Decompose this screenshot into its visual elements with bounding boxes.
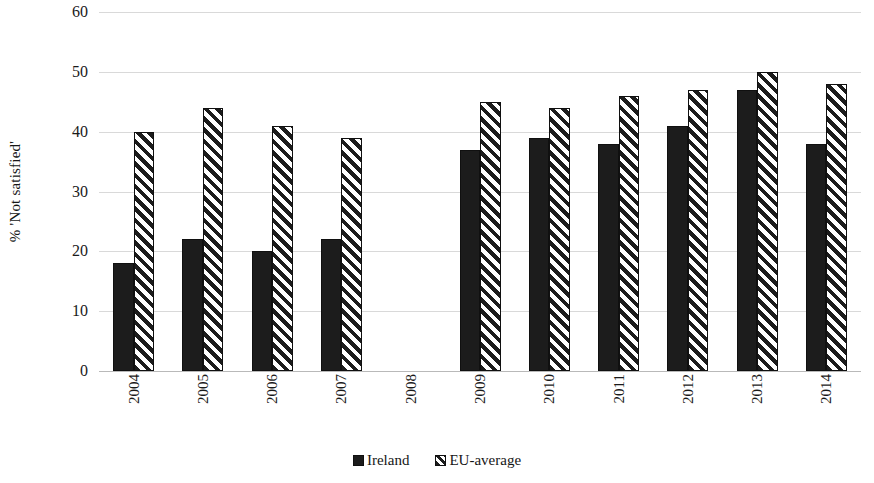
bar-eu-average-2011 (619, 96, 640, 371)
y-axis-title: % 'Not satisfied' (0, 0, 30, 383)
bar-eu-average-2006 (272, 126, 293, 371)
x-axis-tick-labels: 2004200520062007200820092010201120122013… (99, 374, 861, 440)
y-axis-tick-40: 40 (40, 124, 88, 140)
legend-swatch-icon (435, 455, 446, 466)
legend-swatch-icon (353, 455, 364, 466)
bar-ireland-2014 (806, 144, 827, 371)
y-axis-tick-30: 30 (40, 184, 88, 200)
y-axis-tick-labels: 0102030405060 (40, 0, 88, 383)
bar-ireland-2009 (460, 150, 481, 371)
bar-eu-average-2013 (757, 72, 778, 371)
bar-ireland-2013 (737, 90, 758, 371)
bar-eu-average-2010 (549, 108, 570, 371)
bar-chart: % 'Not satisfied' 0102030405060 20042005… (0, 0, 874, 483)
bar-eu-average-2012 (688, 90, 709, 371)
legend-item-ireland[interactable]: Ireland (353, 452, 409, 469)
chart-legend: IrelandEU-average (0, 452, 874, 469)
bar-ireland-2011 (598, 144, 619, 371)
x-axis-tick-2014: 2014 (817, 374, 835, 440)
x-axis-tick-2012: 2012 (679, 374, 697, 440)
bar-ireland-2006 (252, 251, 273, 371)
bar-ireland-2004 (113, 263, 134, 371)
legend-label: Ireland (367, 452, 409, 469)
x-axis-tick-2005: 2005 (194, 374, 212, 440)
x-axis-tick-2004: 2004 (125, 374, 143, 440)
x-axis-tick-2010: 2010 (540, 374, 558, 440)
bar-eu-average-2007 (341, 138, 362, 371)
y-axis-tick-60: 60 (40, 4, 88, 20)
y-axis-tick-10: 10 (40, 303, 88, 319)
x-axis-tick-2011: 2011 (610, 374, 628, 440)
y-axis-tick-20: 20 (40, 243, 88, 259)
gridline-0 (99, 371, 861, 372)
bar-ireland-2010 (529, 138, 550, 371)
bar-eu-average-2009 (480, 102, 501, 371)
bars-layer (99, 12, 861, 371)
x-axis-tick-2008: 2008 (402, 374, 420, 440)
bar-ireland-2005 (182, 239, 203, 371)
bar-eu-average-2004 (134, 132, 155, 371)
legend-label: EU-average (449, 452, 521, 469)
bar-eu-average-2005 (203, 108, 224, 371)
bar-eu-average-2014 (826, 84, 847, 371)
x-axis-tick-2013: 2013 (748, 374, 766, 440)
x-axis-tick-2009: 2009 (471, 374, 489, 440)
y-axis-tick-50: 50 (40, 64, 88, 80)
x-axis-tick-2006: 2006 (263, 374, 281, 440)
y-axis-tick-0: 0 (40, 363, 88, 379)
legend-item-eu-average[interactable]: EU-average (435, 452, 521, 469)
bar-ireland-2007 (321, 239, 342, 371)
plot-area (99, 12, 861, 371)
bar-ireland-2012 (667, 126, 688, 371)
x-axis-tick-2007: 2007 (332, 374, 350, 440)
